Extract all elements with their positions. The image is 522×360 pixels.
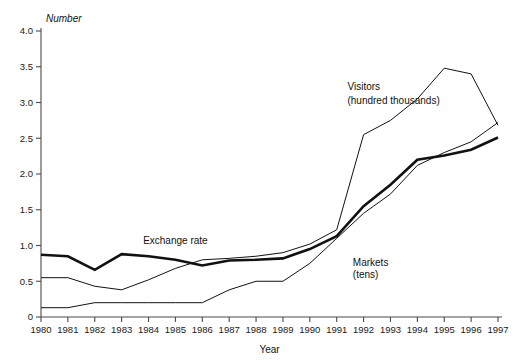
x-tick-label: 1992: [353, 324, 374, 335]
y-axis-title: Number: [46, 13, 82, 24]
y-tick-label: 0: [28, 311, 33, 322]
x-tick-label: 1996: [461, 324, 482, 335]
series-exchange-rate: [41, 138, 498, 270]
x-tick-label: 1991: [326, 324, 347, 335]
series-markets-tens: [41, 123, 498, 308]
y-tick-label: 3.0: [20, 97, 33, 108]
y-tick-label: 1.5: [20, 204, 33, 215]
x-axis-tick-labels: 1980198119821983198419851986198719881989…: [30, 324, 508, 335]
x-tick-label: 1983: [111, 324, 132, 335]
y-tick-label: 0.5: [20, 276, 33, 287]
x-axis-ticks: [41, 317, 498, 322]
y-tick-label: 2.5: [20, 133, 33, 144]
y-tick-label: 4.0: [20, 25, 33, 36]
y-axis-ticks: [36, 31, 41, 317]
line-chart: 00.51.01.52.02.53.03.54.0 19801981198219…: [0, 0, 522, 360]
x-tick-label: 1990: [299, 324, 320, 335]
visitors-label-line2: (hundred thousands): [347, 95, 439, 106]
visitors-label-line1: Visitors: [347, 81, 380, 92]
x-tick-label: 1988: [245, 324, 266, 335]
x-tick-label: 1982: [84, 324, 105, 335]
chart-canvas: 00.51.01.52.02.53.03.54.0 19801981198219…: [0, 0, 522, 360]
exchange-rate-label: Exchange rate: [143, 235, 208, 246]
x-tick-label: 1987: [219, 324, 240, 335]
x-tick-label: 1994: [407, 324, 428, 335]
markets-label-line2: (tens): [353, 269, 379, 280]
y-tick-label: 2.0: [20, 168, 33, 179]
x-tick-label: 1986: [192, 324, 213, 335]
y-tick-label: 3.5: [20, 61, 33, 72]
x-tick-label: 1981: [57, 324, 78, 335]
x-tick-label: 1995: [434, 324, 455, 335]
markets-label-line1: Markets: [353, 257, 389, 268]
x-tick-label: 1989: [272, 324, 293, 335]
y-tick-label: 1.0: [20, 240, 33, 251]
x-tick-label: 1993: [380, 324, 401, 335]
x-tick-label: 1985: [165, 324, 186, 335]
x-tick-label: 1980: [30, 324, 51, 335]
x-tick-label: 1997: [487, 324, 508, 335]
x-tick-label: 1984: [138, 324, 159, 335]
x-axis-title: Year: [259, 344, 280, 355]
y-axis-tick-labels: 00.51.01.52.02.53.03.54.0: [20, 25, 33, 322]
